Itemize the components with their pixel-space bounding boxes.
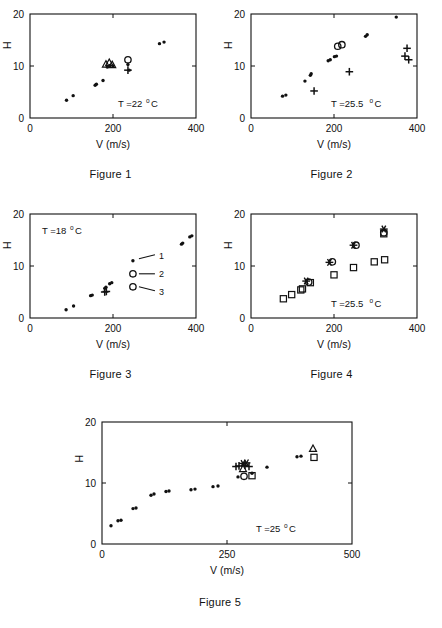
y-tick-label: 20 — [234, 209, 246, 220]
degree-symbol: o — [369, 297, 373, 304]
figure-2-caption: Figure 2 — [221, 168, 442, 180]
y-tick-label: 20 — [13, 9, 25, 20]
y-axis-title: H — [222, 241, 234, 249]
temperature-annotation: T =22oC — [118, 97, 158, 110]
temperature-annotation: T =25oC — [256, 522, 296, 535]
figure-4-caption: Figure 4 — [221, 368, 442, 380]
figure-5-plot: 025050001020HV (m/s)T =25oC — [60, 404, 380, 596]
x-tick-label: 400 — [409, 123, 426, 134]
temperature-value: T =22 — [118, 98, 142, 109]
dot-marker — [158, 42, 161, 45]
temperature-value: T =25.5 — [331, 298, 363, 309]
dot-marker — [281, 94, 284, 97]
dot-marker — [152, 492, 155, 495]
plot-frame — [102, 422, 352, 544]
x-tick-label: 0 — [248, 123, 254, 134]
temperature-annotation: T =25.5oC — [331, 297, 381, 310]
x-tick-label: 200 — [326, 323, 343, 334]
temperature-annotation: T =18oC — [42, 224, 82, 237]
x-tick-label: 500 — [344, 549, 361, 560]
dot-marker — [303, 79, 306, 82]
dot-marker — [295, 455, 298, 458]
x-tick-label: 0 — [248, 323, 254, 334]
x-tick-label: 0 — [27, 323, 33, 334]
x-axis-title: V (m/s) — [317, 138, 351, 150]
y-axis-title: H — [1, 41, 13, 49]
dot-marker — [149, 494, 152, 497]
dot-marker — [216, 484, 219, 487]
degree-symbol: o — [369, 97, 373, 104]
y-tick-label: 0 — [90, 539, 96, 550]
dot-marker — [193, 487, 196, 490]
dot-marker — [95, 83, 98, 86]
dot-marker — [116, 519, 119, 522]
dot-marker — [64, 308, 67, 311]
temperature-unit: C — [75, 225, 82, 236]
y-tick-label: 20 — [13, 209, 25, 220]
x-tick-label: 200 — [326, 123, 343, 134]
x-tick-label: 0 — [99, 549, 105, 560]
legend-label-1: 1 — [159, 251, 164, 261]
y-tick-label: 10 — [234, 261, 246, 272]
dot-marker — [181, 241, 184, 244]
x-axis-title: V (m/s) — [317, 338, 351, 350]
y-tick-label: 20 — [234, 9, 246, 20]
dot-marker — [329, 58, 332, 61]
degree-symbol: o — [146, 97, 150, 104]
temperature-unit: C — [374, 298, 381, 309]
figure-3-caption: Figure 3 — [0, 368, 221, 380]
dot-marker — [190, 234, 193, 237]
temperature-annotation: T =25.5oC — [331, 97, 381, 110]
y-tick-label: 0 — [239, 313, 245, 324]
x-axis-title: V (m/s) — [96, 138, 130, 150]
dot-marker — [211, 485, 214, 488]
x-tick-label: 250 — [219, 549, 236, 560]
figure-4-plot: 020040001020HV (m/s)T =25.5oC — [221, 200, 442, 368]
dot-marker — [335, 54, 338, 57]
dot-marker — [101, 79, 104, 82]
temperature-unit: C — [151, 98, 158, 109]
temperature-unit: C — [374, 98, 381, 109]
figure-3-plot: 020040001020HV (m/s)T =18oC123 — [0, 200, 221, 368]
y-tick-label: 20 — [85, 417, 97, 428]
legend-label-3: 3 — [159, 287, 164, 297]
dot-marker — [309, 72, 312, 75]
dot-marker — [236, 475, 239, 478]
degree-symbol: o — [284, 522, 288, 529]
y-tick-label: 10 — [13, 261, 25, 272]
dot-marker — [299, 454, 302, 457]
figure-1-caption: Figure 1 — [0, 168, 221, 180]
x-tick-label: 400 — [188, 123, 205, 134]
dot-marker — [366, 33, 369, 36]
figure-5-caption: Figure 5 — [60, 596, 380, 608]
degree-symbol: o — [70, 224, 74, 231]
y-axis-title: H — [73, 455, 85, 463]
figure-2-plot: 020040001020HV (m/s)T =25.5oC — [221, 0, 442, 168]
y-tick-label: 10 — [13, 61, 25, 72]
dot-marker — [71, 94, 74, 97]
dot-marker — [167, 489, 170, 492]
legend-dot-icon — [131, 259, 134, 262]
dot-marker — [131, 507, 134, 510]
figure-3-block: 020040001020HV (m/s)T =18oC123 Figure 3 — [0, 200, 221, 380]
figure-4-block: 020040001020HV (m/s)T =25.5oC Figure 4 — [221, 200, 442, 380]
temperature-value: T =18 — [42, 225, 66, 236]
x-tick-label: 400 — [188, 323, 205, 334]
dot-marker — [395, 15, 398, 18]
dot-marker — [110, 281, 113, 284]
figure-1-plot: 020040001020HV (m/s)T =22oC — [0, 0, 221, 168]
y-axis-title: H — [222, 41, 234, 49]
figure-5-block: 025050001020HV (m/s)T =25oC Figure 5 — [60, 404, 380, 608]
dot-marker — [72, 304, 75, 307]
dot-marker — [119, 519, 122, 522]
x-tick-label: 200 — [105, 323, 122, 334]
y-tick-label: 10 — [234, 61, 246, 72]
x-tick-label: 0 — [27, 123, 33, 134]
x-tick-label: 200 — [105, 123, 122, 134]
legend-label-2: 2 — [159, 269, 164, 279]
dot-marker — [164, 490, 167, 493]
temperature-value: T =25.5 — [331, 98, 363, 109]
dot-marker — [134, 506, 137, 509]
y-tick-label: 0 — [239, 113, 245, 124]
dot-marker — [265, 465, 268, 468]
